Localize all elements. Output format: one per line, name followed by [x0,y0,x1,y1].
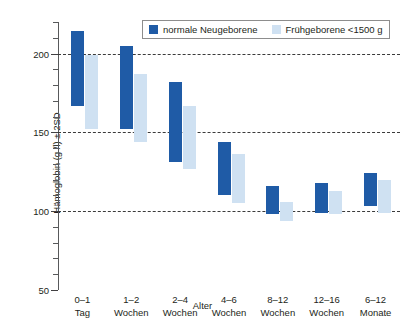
y-axis-tick-label: 150 [33,127,49,138]
y-axis-minor-tick [53,258,58,259]
y-axis-minor-tick [53,101,58,102]
range-bar [120,46,133,130]
chart-container: Hämoglobin (g /l) ± 2SD normale Neugebor… [0,0,405,325]
range-bar [134,74,147,142]
y-axis-tick-label: 100 [33,206,49,217]
y-axis-major-tick [51,211,58,212]
y-axis-line [58,22,59,290]
y-axis-minor-tick [53,85,58,86]
range-bar [169,82,182,162]
chart-legend: normale Neugeborene Frühgeborene <1500 g [142,20,390,39]
legend-item-fruehgeborene: Frühgeborene <1500 g [272,24,383,35]
y-axis-major-tick [51,290,58,291]
y-axis-tick-label: 50 [38,285,49,296]
y-axis-minor-tick [53,227,58,228]
y-axis-minor-tick [53,195,58,196]
range-bar [218,142,231,196]
legend-label-normale-neugeborene: normale Neugeborene [163,24,258,35]
y-axis-minor-tick [53,243,58,244]
x-axis-title: Alter [0,300,405,311]
gridline [58,54,400,55]
y-axis-minor-tick [53,180,58,181]
legend-swatch-icon-fruehgeborene [272,25,281,34]
range-bar [329,191,342,215]
y-axis-tick-label: 200 [33,48,49,59]
range-bar [378,180,391,213]
y-axis-minor-tick [53,274,58,275]
plot-area: 501001502000–1Tag1–2Wochen2–4Wochen4–6Wo… [58,22,400,290]
y-axis-minor-tick [53,164,58,165]
legend-item-normale-neugeborene: normale Neugeborene [149,24,258,35]
range-bar [232,154,245,203]
y-axis-minor-tick [53,38,58,39]
range-bar [364,173,377,206]
range-bar [85,55,98,129]
y-axis-minor-tick [53,117,58,118]
range-bar [280,202,293,221]
y-axis-minor-tick [53,69,58,70]
range-bar [71,31,84,105]
y-axis-major-tick [51,54,58,55]
legend-label-fruehgeborene: Frühgeborene <1500 g [286,24,383,35]
y-axis-major-tick [51,132,58,133]
range-bar [266,186,279,214]
gridline [58,132,400,133]
range-bar [183,106,196,169]
range-bar [315,183,328,213]
y-axis-minor-tick [53,22,58,23]
gridline [58,211,400,212]
y-axis-minor-tick [53,148,58,149]
legend-swatch-icon-normale-neugeborene [149,25,158,34]
